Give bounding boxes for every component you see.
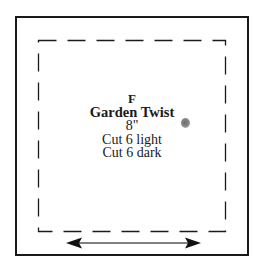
ink-smudge-mark xyxy=(181,118,190,128)
template-label: F Garden Twist 8" Cut 6 light Cut 6 dark xyxy=(72,92,192,160)
template-size: 8" xyxy=(72,119,192,133)
template-title: Garden Twist xyxy=(72,106,192,120)
cut-instruction-light: Cut 6 light xyxy=(72,133,192,147)
grain-line-arrow-icon xyxy=(66,238,201,249)
cut-instruction-dark: Cut 6 dark xyxy=(72,146,192,160)
